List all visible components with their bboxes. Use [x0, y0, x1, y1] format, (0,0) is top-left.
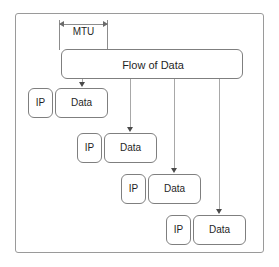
data-payload-box-2: Data: [104, 133, 157, 163]
connector-arrow-icon-1: [79, 82, 85, 87]
connector-arrow-icon-4: [216, 209, 222, 214]
ip-header-box-2: IP: [77, 133, 102, 163]
flow-of-data-box: Flow of Data: [61, 49, 243, 79]
data-payload-box-1: Data: [55, 88, 108, 118]
mtu-dimension-line: [59, 24, 108, 25]
packet-row: IPData: [121, 174, 201, 204]
connector-line-4: [219, 79, 220, 211]
diagram-canvas: MTU Flow of Data IPDataIPDataIPDataIPDat…: [0, 0, 279, 267]
connector-arrow-icon-3: [171, 168, 177, 173]
ip-header-box-4: IP: [166, 215, 191, 245]
connector-arrow-icon-2: [127, 127, 133, 132]
connector-line-3: [174, 79, 175, 170]
data-payload-box-4: Data: [193, 215, 246, 245]
flow-of-data-label: Flow of Data: [62, 50, 244, 80]
ip-header-box-1: IP: [28, 88, 53, 118]
packet-row: IPData: [28, 88, 108, 118]
ip-header-box-3: IP: [121, 174, 146, 204]
packet-row: IPData: [166, 215, 246, 245]
connector-line-2: [130, 79, 131, 129]
data-payload-box-3: Data: [148, 174, 201, 204]
mtu-label: MTU: [59, 26, 108, 37]
packet-row: IPData: [77, 133, 157, 163]
